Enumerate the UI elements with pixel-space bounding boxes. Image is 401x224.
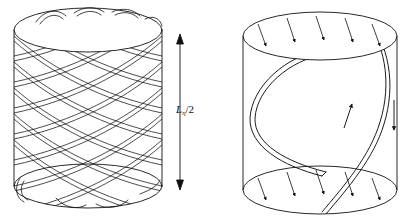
- helical-conductor-strands: [250, 14, 390, 214]
- left-cylinder-body: [14, 8, 162, 208]
- right-bottom-ellipse: [243, 166, 397, 214]
- figure-root: Lη/2: [0, 0, 401, 224]
- left-braided-weave: [14, 0, 162, 217]
- right-top-ellipse: [243, 12, 397, 60]
- dimension-arrowhead-top: [177, 34, 184, 44]
- weave-family-left-handed: [14, 0, 162, 217]
- panel-double-helix-field-cylinder: iθ iθ B E E iz iz: [200, 0, 401, 224]
- dimension-label-L-half: Lη/2: [176, 104, 194, 117]
- dimension-arrowhead-bottom: [177, 180, 184, 190]
- left-top-ellipse: [14, 8, 162, 52]
- right-diagram-svg: [200, 0, 401, 224]
- bottom-endcap-current-arrows: [258, 170, 380, 200]
- magnetic-field-vector: [344, 104, 352, 128]
- weave-family-right-handed: [14, 0, 162, 217]
- left-bottom-ellipse: [14, 164, 162, 208]
- left-diagram-svg: [0, 0, 200, 224]
- panel-braided-helix-cylinder: Lη/2: [0, 0, 200, 224]
- top-endcap-current-arrows: [258, 16, 380, 46]
